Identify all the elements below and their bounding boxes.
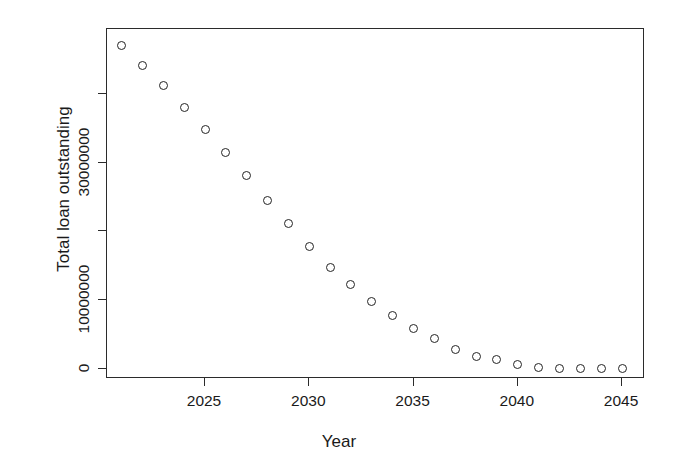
y-axis-tick — [98, 162, 106, 163]
data-point — [305, 242, 314, 251]
y-axis-title: Total loan outstanding — [54, 39, 74, 339]
data-point — [117, 41, 126, 50]
plot-area — [106, 28, 644, 378]
data-point — [221, 148, 230, 157]
data-point — [201, 125, 210, 134]
data-point — [367, 297, 376, 306]
data-points-layer — [107, 29, 643, 377]
x-axis-tick-label: 2035 — [395, 392, 429, 410]
data-point — [451, 345, 460, 354]
data-point — [409, 324, 418, 333]
data-point — [326, 263, 335, 272]
x-axis-tick — [621, 378, 622, 386]
x-axis-title: Year — [0, 432, 678, 452]
x-axis-tick — [413, 378, 414, 386]
y-axis-tick — [98, 230, 106, 231]
y-axis-tick-label: 30000000 — [75, 127, 93, 196]
y-axis-tick — [98, 93, 106, 94]
y-axis-tick — [98, 299, 106, 300]
x-axis-tick-label: 2025 — [187, 392, 221, 410]
scatter-plot-figure: 01000000030000000 20252030203520402045 T… — [0, 0, 678, 476]
y-axis-tick — [98, 368, 106, 369]
data-point — [346, 280, 355, 289]
data-point — [388, 311, 397, 320]
x-axis-tick-label: 2040 — [500, 392, 534, 410]
data-point — [492, 355, 501, 364]
data-point — [576, 364, 585, 373]
x-axis-tick-label: 2045 — [604, 392, 638, 410]
data-point — [138, 61, 147, 70]
data-point — [555, 364, 564, 373]
data-point — [284, 219, 293, 228]
x-axis-tick — [517, 378, 518, 386]
data-point — [618, 364, 627, 373]
data-point — [180, 103, 189, 112]
data-point — [513, 360, 522, 369]
x-axis-tick — [308, 378, 309, 386]
data-point — [534, 363, 543, 372]
y-axis-tick-label: 10000000 — [75, 265, 93, 334]
y-axis-tick-label: 0 — [75, 363, 93, 372]
x-axis-tick — [204, 378, 205, 386]
x-axis-tick-label: 2030 — [291, 392, 325, 410]
data-point — [472, 352, 481, 361]
data-point — [597, 364, 606, 373]
data-point — [242, 171, 251, 180]
data-point — [159, 81, 168, 90]
data-point — [263, 196, 272, 205]
data-point — [430, 334, 439, 343]
